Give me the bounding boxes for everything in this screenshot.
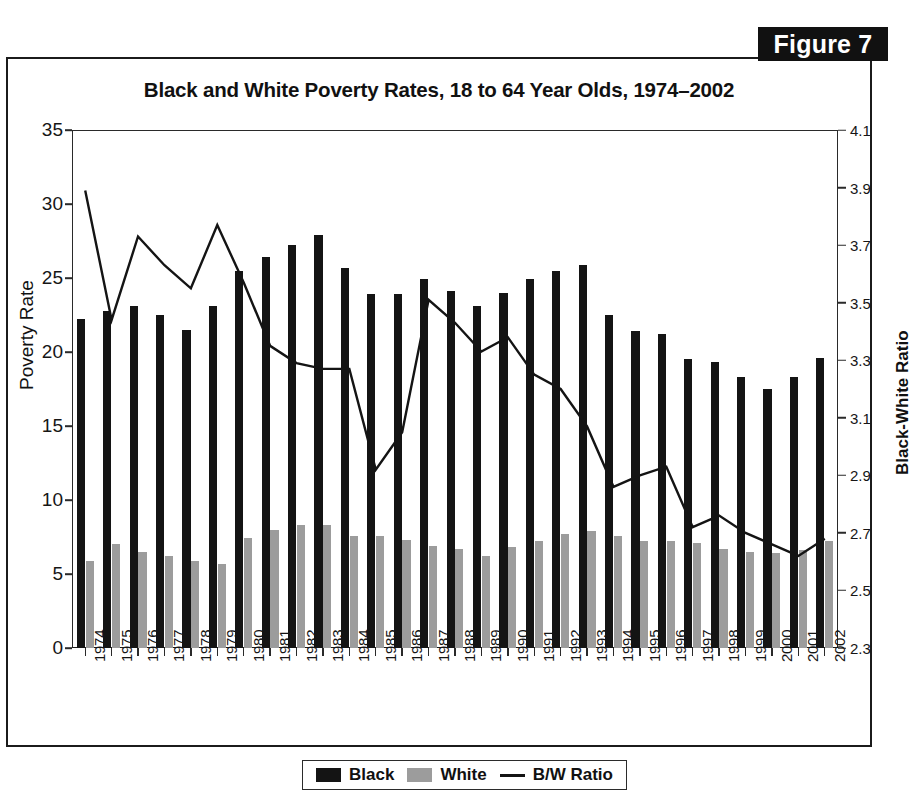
x-tick — [137, 648, 138, 656]
x-tick — [613, 648, 614, 656]
plot-area: 05101520253035 2.32.52.72.93.13.33.53.73… — [72, 130, 838, 648]
legend-line-marker — [500, 774, 525, 777]
x-tick — [269, 648, 270, 656]
x-tick — [217, 648, 218, 656]
y-tick-right: 2.7 — [838, 524, 871, 541]
x-tick — [111, 648, 112, 656]
y-tick-right: 2.5 — [838, 582, 871, 599]
x-tick — [718, 648, 719, 656]
x-tick — [85, 648, 86, 656]
x-tick — [586, 648, 587, 656]
legend-item-label: Black — [349, 765, 394, 785]
y-axis-label-left: Poverty Rate — [16, 280, 38, 390]
x-tick — [401, 648, 402, 656]
x-tick — [639, 648, 640, 656]
x-tick — [507, 648, 508, 656]
x-tick — [798, 648, 799, 656]
chart-title: Black and White Poverty Rates, 18 to 64 … — [6, 78, 872, 102]
figure-number-badge: Figure 7 — [758, 27, 888, 61]
x-tick — [745, 648, 746, 656]
y-tick-right: 3.7 — [838, 237, 871, 254]
x-tick — [375, 648, 376, 656]
legend-item: B/W Ratio — [500, 765, 613, 785]
x-tick — [666, 648, 667, 656]
y-axis-label-right: Black-White Ratio — [893, 330, 913, 475]
ratio-line-layer — [72, 130, 838, 648]
y-tick-left: 30 — [42, 193, 72, 215]
legend-item: Black — [316, 765, 394, 785]
y-tick-left: 10 — [42, 489, 72, 511]
ratio-line — [85, 190, 825, 555]
y-tick-right: 3.3 — [838, 352, 871, 369]
y-tick-right: 2.9 — [838, 467, 871, 484]
x-tick — [692, 648, 693, 656]
y-tick-right: 3.9 — [838, 179, 871, 196]
x-tick — [428, 648, 429, 656]
x-tick — [322, 648, 323, 656]
y-tick-left: 0 — [52, 637, 72, 659]
legend-item-label: White — [440, 765, 486, 785]
y-tick-left: 15 — [42, 415, 72, 437]
x-tick — [824, 648, 825, 656]
legend-swatch-marker — [407, 768, 432, 782]
y-tick-left: 25 — [42, 267, 72, 289]
x-tick — [164, 648, 165, 656]
y-tick-right: 4.1 — [838, 122, 871, 139]
x-tick — [296, 648, 297, 656]
x-tick — [349, 648, 350, 656]
chart-legend: BlackWhiteB/W Ratio — [302, 760, 627, 790]
y-tick-left: 5 — [52, 563, 72, 585]
x-tick — [560, 648, 561, 656]
x-tick — [481, 648, 482, 656]
legend-item-label: B/W Ratio — [533, 765, 613, 785]
legend-swatch-marker — [316, 768, 341, 782]
y-tick-right: 3.5 — [838, 294, 871, 311]
x-tick — [190, 648, 191, 656]
y-tick-left: 35 — [42, 119, 72, 141]
y-tick-right: 3.1 — [838, 409, 871, 426]
x-tick — [454, 648, 455, 656]
legend-item: White — [407, 765, 486, 785]
figure-page: Figure 7 Black and White Poverty Rates, … — [0, 0, 922, 792]
x-tick — [771, 648, 772, 656]
x-tick — [534, 648, 535, 656]
x-tick — [243, 648, 244, 656]
y-tick-left: 20 — [42, 341, 72, 363]
